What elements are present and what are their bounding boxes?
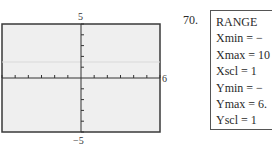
y-min-label: −5 [73, 136, 84, 146]
range-ymax: Ymax = 6. [216, 96, 272, 112]
range-xscl: Xscl = 1 [216, 63, 272, 79]
y-max-label: 5 [78, 12, 83, 22]
range-title: RANGE [216, 14, 272, 30]
range-ymin: Ymin = − [216, 80, 272, 96]
range-xmax: Xmax = 10 [216, 47, 272, 63]
range-xmin: Xmin = − [216, 30, 272, 46]
graph-figure: 5 −5 6 [0, 0, 180, 146]
range-yscl: Yscl = 1 [216, 112, 272, 128]
x-max-label: 6 [162, 74, 167, 84]
graph-window [0, 0, 180, 146]
problem-number: 70. [183, 14, 198, 26]
range-settings-box: RANGE Xmin = − Xmax = 10 Xscl = 1 Ymin =… [210, 10, 272, 130]
